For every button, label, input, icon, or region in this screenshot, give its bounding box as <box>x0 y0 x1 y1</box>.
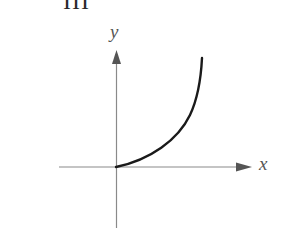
function-curve <box>116 58 202 167</box>
graph <box>0 0 282 229</box>
x-axis-arrow-icon <box>236 163 252 172</box>
y-axis-arrow-icon <box>112 50 121 64</box>
